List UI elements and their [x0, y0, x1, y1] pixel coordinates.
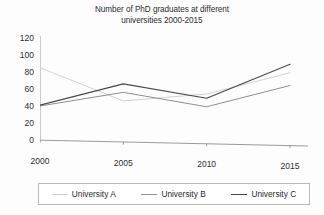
chart-series	[40, 64, 290, 107]
line-chart-svg	[40, 36, 308, 154]
legend-label: University C	[251, 189, 296, 199]
y-axis-tick-label: 60	[12, 85, 34, 94]
legend-entry-university-c[interactable]: University C	[231, 189, 296, 199]
legend-entry-university-a[interactable]: University A	[52, 189, 116, 199]
chart-title-line-2: universities 2000-2015	[30, 15, 294, 26]
legend-line-swatch-icon	[52, 194, 68, 195]
legend-line-swatch-icon	[141, 194, 157, 195]
series-line-university-c	[40, 64, 290, 105]
y-axis-tick-label: 20	[12, 119, 34, 128]
x-axis-tick-label: 2010	[187, 159, 227, 169]
chart-legend: University AUniversity BUniversity C	[38, 183, 310, 205]
plot-area	[40, 36, 308, 154]
chart-title: Number of PhD graduates at different uni…	[30, 4, 294, 26]
y-axis-tick-label: 0	[12, 136, 34, 145]
legend-label: University A	[72, 189, 116, 199]
chart-axes	[40, 36, 308, 148]
legend-label: University B	[161, 189, 205, 199]
y-axis-tick-label: 100	[12, 51, 34, 60]
x-axis-tick-label: 2000	[20, 156, 60, 166]
x-axis-tick-labels: 2000200520102015	[40, 156, 308, 170]
y-axis-tick-label: 120	[12, 34, 34, 43]
legend-line-swatch-icon	[231, 194, 247, 195]
x-axis-line	[40, 140, 308, 146]
legend-entry-university-b[interactable]: University B	[141, 189, 205, 199]
x-axis-tick-label: 2005	[103, 158, 143, 168]
y-axis-tick-label: 40	[12, 102, 34, 111]
y-axis-tick-label: 80	[12, 68, 34, 77]
y-axis-tick-labels: 020406080100120	[8, 33, 34, 155]
chart-title-line-1: Number of PhD graduates at different	[95, 5, 229, 14]
x-axis-tick-label: 2015	[270, 161, 310, 171]
chart-screenshot: Number of PhD graduates at different uni…	[0, 0, 324, 215]
